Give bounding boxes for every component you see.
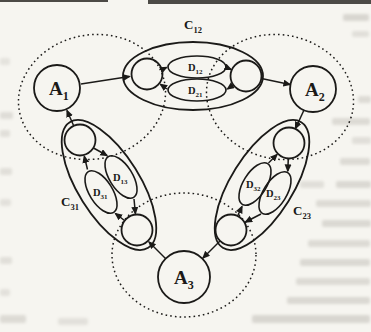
port-c12-left: [132, 59, 163, 90]
label-a2: A2: [305, 79, 325, 104]
arrow-port-to-d31: [116, 214, 125, 221]
label-d13: D13: [113, 172, 128, 186]
buffer-d23-ellipse: [253, 167, 298, 220]
label-a1: A1: [49, 78, 69, 103]
label-c23: C23: [293, 203, 311, 221]
label-d32: D32: [246, 179, 261, 193]
port-c23-bottom: [216, 215, 247, 246]
port-c31-top: [65, 125, 96, 156]
agents-channels-diagram: A1 A2 A3 C12 C31 C23 D12 D21 D31 D13 D32…: [0, 0, 371, 332]
label-c31: C31: [61, 194, 79, 212]
arrow-d12-to-port: [227, 68, 232, 70]
channel-c31-ellipse: [43, 106, 174, 264]
scanned-page: A1 A2 A3 C12 C31 C23 D12 D21 D31 D13 D32…: [0, 0, 371, 332]
arrow-port-to-d23: [288, 158, 289, 171]
dashed-scope-a3: [112, 193, 256, 317]
arrow-a3-to-c31: [149, 242, 166, 259]
channel-c23-ellipse: [196, 106, 327, 264]
arrow-d13-to-port: [134, 199, 135, 214]
arrow-d31-to-port: [84, 156, 87, 169]
arrow-c23-to-a3: [203, 241, 220, 258]
arrow-port-to-d13: [94, 148, 108, 156]
arrow-a1-to-c12: [81, 77, 130, 85]
label-a3: A3: [174, 267, 194, 292]
label-d23: D23: [266, 188, 281, 202]
port-c23-top: [274, 128, 305, 159]
arrow-d23-to-port: [246, 214, 262, 222]
label-c12: C12: [184, 17, 202, 35]
port-c31-bottom: [122, 215, 153, 246]
label-d12: D12: [188, 62, 203, 76]
arrow-c12-to-a2: [262, 79, 291, 85]
channel-c12-ellipse: [123, 42, 263, 110]
buffer-d32-ellipse: [233, 158, 278, 211]
arrow-port-to-d21: [228, 86, 233, 90]
arrow-port-to-d32: [238, 207, 242, 216]
port-c12-right: [231, 61, 262, 92]
label-d31: D31: [93, 187, 108, 201]
arrow-a2-to-c23: [296, 110, 305, 129]
label-d21: D21: [188, 85, 203, 99]
arrow-d21-to-port: [161, 84, 168, 89]
